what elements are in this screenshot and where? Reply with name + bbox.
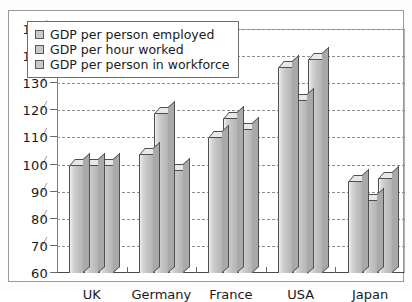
chart-legend: GDP per person employed GDP per hour wor… [27,21,239,78]
bar [278,67,293,273]
x-axis-label: France [209,287,252,302]
x-axis-label: UK [83,287,101,302]
bar-cluster [278,29,323,273]
legend-label: GDP per person in workforce [50,57,229,72]
x-tick-mark [335,267,336,273]
bar-group: Japan [335,29,405,273]
bar [139,154,154,273]
y-tick-label: 90 [31,184,48,199]
x-tick-mark [127,267,128,273]
y-tick-label: 80 [31,211,48,226]
legend-label: GDP per hour worked [50,42,184,57]
y-tick-label: 60 [31,266,48,281]
legend-label: GDP per person employed [50,27,214,42]
bar-cluster [348,29,393,273]
legend-swatch-icon [35,30,44,39]
bar [69,165,84,273]
y-tick-label: 70 [31,238,48,253]
y-tick-label: 100 [23,157,48,172]
y-tick-label: 110 [23,130,48,145]
legend-item: GDP per person employed [35,27,229,42]
bar [208,137,223,273]
legend-swatch-icon [35,60,44,69]
x-tick-mark [266,267,267,273]
bar-group: USA [266,29,336,273]
x-axis-label: Japan [352,287,388,302]
legend-swatch-icon [35,45,44,54]
bar [348,181,363,273]
x-axis-label: Germany [132,287,192,302]
legend-item: GDP per hour worked [35,42,229,57]
y-tick-mark [50,272,57,273]
legend-item: GDP per person in workforce [35,57,229,72]
chart-frame: 60708090100110120130140150 UKGermanyFran… [8,10,404,282]
x-axis-label: USA [287,287,314,302]
y-tick-label: 120 [23,103,48,118]
x-tick-mark [196,267,197,273]
